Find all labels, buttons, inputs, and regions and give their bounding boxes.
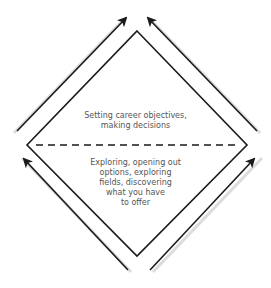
top-section-label: Setting career objectives, making decisi… [70, 111, 201, 131]
arrow-shadows [14, 21, 262, 272]
bottom-label-line: what you have [70, 188, 201, 198]
bottom-label-line: Exploring, opening out [70, 158, 201, 168]
top-label-line: Setting career objectives, [70, 111, 201, 121]
bottom-label-line: options, exploring [70, 168, 201, 178]
bottom-label-line: fields, discovering [70, 178, 201, 188]
diamond-outline [27, 31, 247, 256]
top-label-line: making decisions [70, 121, 201, 131]
bottom-section-label: Exploring, opening out options, explorin… [70, 158, 201, 208]
bottom-label-line: to offer [70, 198, 201, 208]
diamond-diagram [0, 0, 271, 288]
